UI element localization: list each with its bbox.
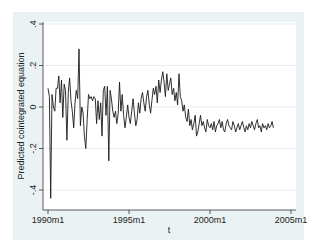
- x-tick-label: 1990m1: [32, 215, 65, 225]
- y-tick-label: 0: [28, 104, 38, 109]
- x-tick-label: 2000m1: [194, 215, 227, 225]
- line-chart: .4.20-.2-.4 1990m11995m12000m12005m1 Pre…: [0, 0, 320, 248]
- series-line: [48, 49, 273, 198]
- y-tick-label: -.4: [28, 185, 38, 196]
- gridlines: [43, 24, 296, 190]
- y-axis-title: Predicted cointegrated equation: [16, 52, 26, 179]
- x-tick-label: 2005m1: [275, 215, 308, 225]
- x-axis: 1990m11995m12000m12005m1: [32, 210, 308, 225]
- y-tick-label: .4: [28, 20, 38, 28]
- y-tick-label: .2: [28, 62, 38, 70]
- y-tick-label: -.2: [28, 143, 38, 154]
- y-axis: .4.20-.2-.4: [28, 20, 43, 210]
- x-tick-label: 1995m1: [113, 215, 146, 225]
- x-axis-title: t: [168, 225, 171, 235]
